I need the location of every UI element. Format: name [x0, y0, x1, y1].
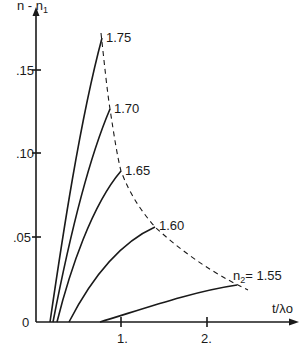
curve-155 [100, 285, 237, 322]
y-tick-label-005: .05 [13, 230, 31, 245]
cutoff-envelope [101, 33, 248, 290]
x-tick-label-2: 2. [201, 331, 212, 346]
curve-label-155: n2= 1.55 [233, 268, 282, 285]
x-axis-arrow-icon [289, 319, 299, 326]
curve-165 [57, 171, 121, 322]
curve-label-165: 1.65 [125, 163, 150, 178]
curve-170 [53, 109, 110, 322]
y-tick-label-010: .10 [16, 146, 34, 161]
curve-label-170: 1.70 [114, 101, 139, 116]
x-tick-label-1: 1. [117, 331, 128, 346]
y-tick-label-0: 0 [22, 315, 29, 330]
y-tick-label-015: .15 [16, 63, 34, 78]
curve-label-160: 1.60 [159, 218, 184, 233]
curve-label-175: 1.75 [106, 30, 131, 45]
y-axis-label: n - n1 [17, 0, 48, 15]
x-axis-label: t/λo [272, 301, 293, 316]
chart-canvas: n - n1 .15 .10 .05 0 1. 2. t/λo 1.75 1.7… [0, 0, 307, 350]
